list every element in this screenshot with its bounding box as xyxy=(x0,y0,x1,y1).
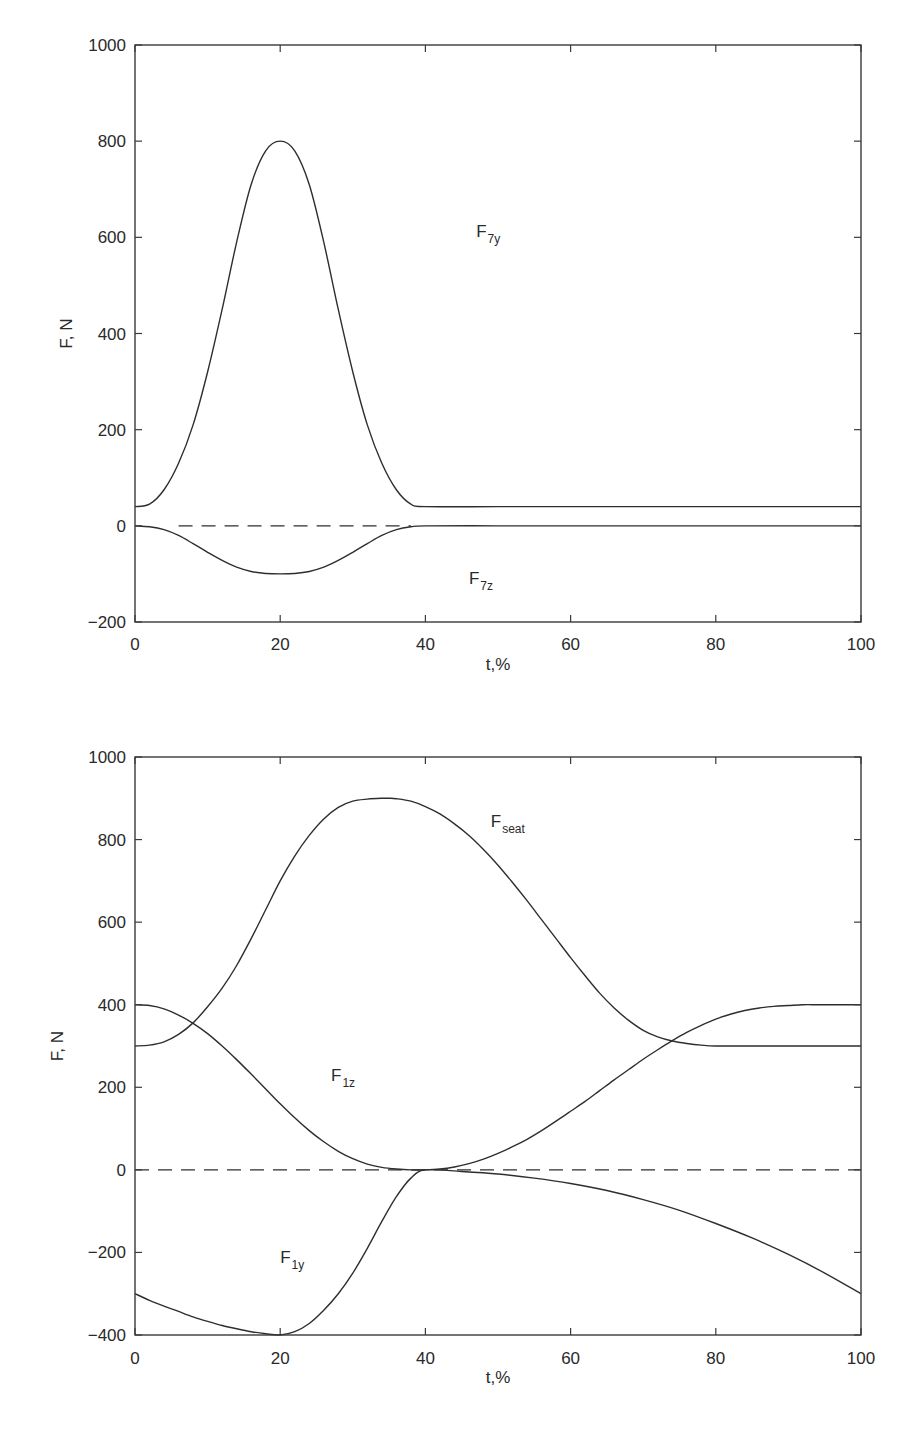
x-tick-label: 100 xyxy=(847,1349,875,1368)
f7y-line xyxy=(135,141,861,507)
x-axis-label: t,% xyxy=(486,655,511,674)
y-tick-label: 0 xyxy=(117,517,126,536)
fseat-label: Fseat xyxy=(491,812,526,836)
y-axis-label: F, N xyxy=(48,1031,67,1061)
x-tick-label: 40 xyxy=(416,635,435,654)
f1y-line xyxy=(135,1170,861,1336)
f7z-label: F7z xyxy=(469,569,493,593)
x-tick-label: 0 xyxy=(130,1349,139,1368)
x-tick-label: 80 xyxy=(706,1349,725,1368)
y-tick-label: 1000 xyxy=(88,36,126,55)
f1z-label: F1z xyxy=(331,1066,355,1090)
x-axis-label: t,% xyxy=(486,1368,511,1387)
figure: F7yF7z020406080100−20002004006008001000t… xyxy=(0,0,924,1435)
y-axis-label: F, N xyxy=(57,318,76,348)
y-tick-label: 800 xyxy=(98,831,126,850)
y-tick-label: 200 xyxy=(98,1078,126,1097)
x-tick-label: 60 xyxy=(561,1349,580,1368)
x-tick-label: 40 xyxy=(416,1349,435,1368)
y-tick-label: −200 xyxy=(88,613,126,632)
x-tick-label: 80 xyxy=(706,635,725,654)
x-tick-label: 20 xyxy=(271,635,290,654)
f1z-line xyxy=(135,1005,861,1170)
y-tick-label: 600 xyxy=(98,913,126,932)
f7z-line xyxy=(135,526,861,574)
y-tick-label: 400 xyxy=(98,325,126,344)
y-tick-label: 400 xyxy=(98,996,126,1015)
y-tick-label: 600 xyxy=(98,228,126,247)
x-tick-label: 60 xyxy=(561,635,580,654)
plot-frame xyxy=(135,45,861,622)
bottom-chart-f1-fseat: FseatF1zF1y020406080100−400−200020040060… xyxy=(48,748,875,1387)
y-tick-label: 800 xyxy=(98,132,126,151)
f7y-label: F7y xyxy=(476,222,500,246)
y-tick-label: 1000 xyxy=(88,748,126,767)
top-chart-f7: F7yF7z020406080100−20002004006008001000t… xyxy=(57,36,875,674)
f1y-label: F1y xyxy=(280,1248,304,1272)
y-tick-label: −400 xyxy=(88,1326,126,1345)
y-tick-label: 200 xyxy=(98,421,126,440)
x-tick-label: 20 xyxy=(271,1349,290,1368)
x-tick-label: 100 xyxy=(847,635,875,654)
y-tick-label: 0 xyxy=(117,1161,126,1180)
x-tick-label: 0 xyxy=(130,635,139,654)
y-tick-label: −200 xyxy=(88,1243,126,1262)
